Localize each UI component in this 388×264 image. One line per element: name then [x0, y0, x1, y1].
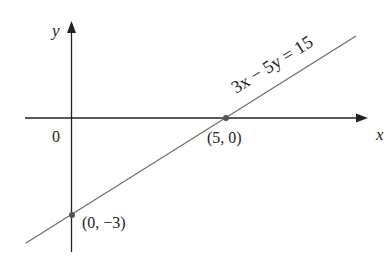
x-axis-label: x	[375, 125, 384, 144]
y-intercept-label: (0, −3)	[82, 214, 126, 232]
origin-label: 0	[52, 128, 60, 145]
graph: y x 0 (5, 0) (0, −3) 3x − 5y = 15	[0, 0, 388, 264]
x-intercept-point	[223, 115, 229, 121]
x-axis-arrow-icon	[356, 114, 368, 123]
y-intercept-point	[69, 212, 75, 218]
equation-line	[26, 36, 356, 243]
equation-label: 3x − 5y = 15	[228, 32, 317, 98]
y-axis-label: y	[50, 21, 60, 40]
y-axis-arrow-icon	[67, 21, 76, 33]
x-intercept-label: (5, 0)	[207, 129, 242, 147]
